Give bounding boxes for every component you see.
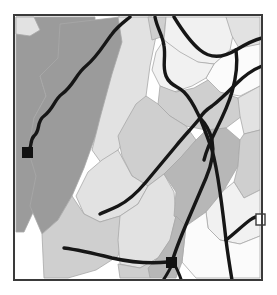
marker-west[interactable] [22,147,33,158]
inset-east[interactable] [256,214,265,225]
inset-boxes-layer[interactable] [256,214,265,225]
map-viewer [0,0,277,295]
marker-south[interactable] [166,257,177,268]
map-canvas[interactable] [0,0,277,295]
map-clip-group [14,15,265,282]
